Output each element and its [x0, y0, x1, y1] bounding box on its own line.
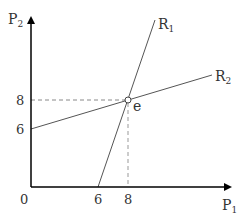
- y-axis-label: P2: [8, 11, 23, 29]
- origin-label: 0: [20, 192, 28, 207]
- reaction-function-diagram: P2 P1 R1 R2 e 8 6 0 6 8: [0, 0, 242, 217]
- y-tick-6: 6: [16, 122, 24, 137]
- r1-label: R1: [158, 16, 174, 34]
- r2-line: [31, 75, 212, 129]
- x-tick-6: 6: [94, 192, 102, 207]
- y-tick-8: 8: [16, 93, 24, 108]
- r2-label: R2: [215, 68, 231, 86]
- x-tick-8: 8: [124, 192, 132, 207]
- x-axis-label: P1: [222, 197, 237, 215]
- equilibrium-point-marker: [125, 97, 131, 103]
- r1-line: [98, 20, 155, 187]
- equilibrium-label: e: [133, 98, 141, 114]
